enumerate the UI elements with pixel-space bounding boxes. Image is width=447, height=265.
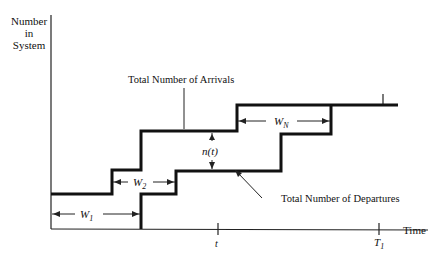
arrivals-curve xyxy=(51,105,398,194)
x-axis-label: Time xyxy=(403,224,426,236)
arrow-down-icon xyxy=(209,162,215,169)
arrow-left-icon xyxy=(239,118,246,124)
n-t-label: n(t) xyxy=(202,145,218,157)
arrow-right-icon xyxy=(322,118,329,124)
w1-label: W1 xyxy=(80,208,93,225)
arrivals-label: Total Number of Arrivals xyxy=(128,74,234,86)
queue-diagram xyxy=(0,0,447,265)
y-axis-label: Number in System xyxy=(11,15,47,51)
departures-label: Total Number of Departures xyxy=(281,193,400,205)
arrow-up-icon xyxy=(209,134,215,140)
x-axis xyxy=(51,229,428,230)
wn-label: WN xyxy=(274,115,289,132)
tick-t-label: t xyxy=(215,238,218,250)
arrow-right-icon xyxy=(132,211,139,217)
arrow-left-icon xyxy=(114,179,121,185)
arrow-left-icon xyxy=(53,211,60,217)
tick-T1-label: T1 xyxy=(374,236,384,253)
w2-label: W2 xyxy=(133,176,146,193)
arrow-right-icon xyxy=(167,179,174,185)
